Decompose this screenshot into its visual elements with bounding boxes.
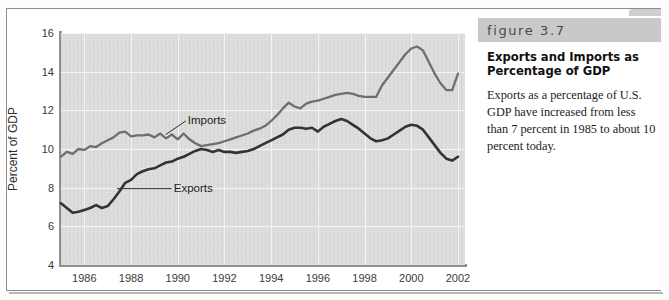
series-lines bbox=[61, 33, 465, 265]
y-tick-label-16: 16 bbox=[42, 28, 54, 39]
y-tick-label-4: 4 bbox=[48, 260, 54, 271]
x-tick-label-1986: 1986 bbox=[72, 273, 96, 284]
figure-number-label: figure 3.7 bbox=[487, 23, 566, 38]
x-tick-label-1996: 1996 bbox=[306, 273, 330, 284]
figure-title: Exports and Imports as Percentage of GDP bbox=[487, 50, 655, 78]
y-tick-label-8: 8 bbox=[48, 182, 54, 193]
x-tick-label-1998: 1998 bbox=[352, 273, 376, 284]
y-tick-label-12: 12 bbox=[42, 105, 54, 116]
y-tick-label-10: 10 bbox=[42, 144, 54, 155]
figure-frame-shadow bbox=[9, 292, 663, 294]
y-tick-label-6: 6 bbox=[48, 221, 54, 232]
figure-sidebar: figure 3.7 Exports and Imports as Percen… bbox=[478, 9, 661, 290]
page-corner-tab bbox=[629, 9, 661, 16]
x-tick-label-2002: 2002 bbox=[446, 273, 470, 284]
y-tick-label-14: 14 bbox=[42, 66, 54, 77]
x-tick-label-2000: 2000 bbox=[399, 273, 423, 284]
imports-series-label: Imports bbox=[188, 115, 226, 127]
x-tick-label-1992: 1992 bbox=[212, 273, 236, 284]
imports-line bbox=[61, 47, 458, 157]
x-tick-label-1988: 1988 bbox=[119, 273, 143, 284]
exports-series-label: Exports bbox=[174, 183, 213, 195]
x-tick-label-1990: 1990 bbox=[166, 273, 190, 284]
y-axis-label: Percent of GDP bbox=[6, 107, 20, 191]
x-tick-label-1994: 1994 bbox=[259, 273, 283, 284]
chart-area: Percent of GDP 46810121416 1986198819901… bbox=[7, 9, 477, 290]
figure-root: Percent of GDP 46810121416 1986198819901… bbox=[0, 0, 669, 300]
plot-region: 46810121416 1986198819901992199419961998… bbox=[61, 33, 465, 265]
figure-caption: Exports as a percentage of U.S. GDP have… bbox=[487, 87, 657, 155]
